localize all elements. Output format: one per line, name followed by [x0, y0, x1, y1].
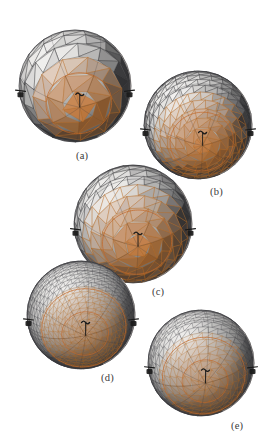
panel-caption-c: (c) [152, 286, 164, 297]
equator-clip [73, 231, 79, 236]
panel-caption-a: (a) [76, 150, 88, 161]
equator-clip [18, 92, 24, 97]
sphere-figure-svg [0, 0, 269, 445]
equator-clip [147, 369, 153, 374]
equator-clip [127, 92, 133, 97]
panel-caption-b: (b) [210, 186, 223, 197]
sphere-panel-e [145, 310, 258, 416]
panel-caption-e: (e) [231, 420, 243, 431]
sphere-facets-b [144, 71, 252, 179]
equator-clip [131, 321, 137, 326]
sphere-panel-a [16, 30, 135, 142]
panel-caption-d: (d) [101, 372, 114, 383]
sphere-facets-e [148, 310, 254, 416]
sphere-panel-b [141, 71, 256, 179]
figure-canvas [0, 0, 269, 445]
equator-clip [250, 369, 256, 374]
equator-clip [188, 231, 194, 236]
equator-clip [26, 321, 32, 326]
equator-clip [143, 131, 149, 136]
equator-clip [248, 131, 254, 136]
